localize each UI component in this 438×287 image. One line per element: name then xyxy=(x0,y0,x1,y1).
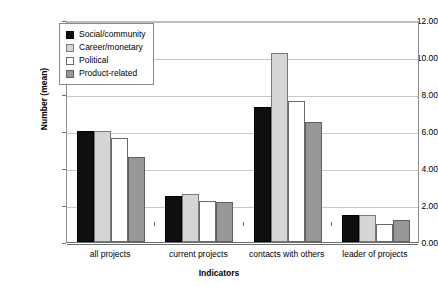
bar-chart: Number (mean) 12.0010.008.006.004.002.00… xyxy=(0,0,438,287)
bar xyxy=(254,107,271,242)
bar-group xyxy=(155,22,243,242)
y-axis-tick-mark xyxy=(62,243,66,244)
bar xyxy=(182,194,199,242)
bar xyxy=(271,53,288,242)
bar xyxy=(216,202,233,242)
bar xyxy=(393,220,410,242)
x-axis-tick-mark xyxy=(243,222,244,226)
bar-group xyxy=(332,22,420,242)
bar xyxy=(199,201,216,242)
x-axis-tick-mark xyxy=(154,222,155,226)
bar xyxy=(165,196,182,242)
bar xyxy=(77,131,94,242)
bar xyxy=(111,138,128,242)
legend-item-label: Social/community xyxy=(79,30,146,39)
legend-item: Political xyxy=(66,54,146,67)
bar xyxy=(288,101,305,242)
legend-swatch-icon xyxy=(66,57,74,65)
y-axis-title: Number (mean) xyxy=(39,39,49,159)
bar-group xyxy=(244,22,332,242)
bar xyxy=(342,215,359,242)
legend-swatch-icon xyxy=(66,70,74,78)
bar-group-bars xyxy=(332,22,420,242)
legend-swatch-icon xyxy=(66,44,74,52)
legend-item: Social/community xyxy=(66,28,146,41)
bar xyxy=(305,122,322,242)
bar xyxy=(128,157,145,242)
bar xyxy=(376,224,393,243)
legend-item-label: Product-related xyxy=(79,69,137,78)
bar-group-bars xyxy=(155,22,243,242)
legend-item: Product-related xyxy=(66,67,146,80)
x-axis-title: Indicators xyxy=(0,268,438,278)
chart-legend: Social/communityCareer/monetaryPolitical… xyxy=(59,23,154,85)
gridline xyxy=(67,244,418,245)
legend-swatch-icon xyxy=(66,31,74,39)
bar xyxy=(94,131,111,242)
legend-item-label: Career/monetary xyxy=(79,43,143,52)
legend-item: Career/monetary xyxy=(66,41,146,54)
legend-item-label: Political xyxy=(79,56,108,65)
x-axis-category-label: leader of projects xyxy=(315,249,435,259)
x-axis-tick-mark xyxy=(331,222,332,226)
bar-group-bars xyxy=(244,22,332,242)
bar xyxy=(359,215,376,242)
